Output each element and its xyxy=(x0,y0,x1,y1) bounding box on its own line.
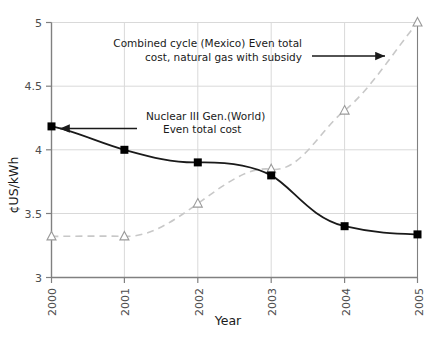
x-tick-label-2001: 2001 xyxy=(119,288,132,316)
x-tick-label-2000: 2000 xyxy=(46,288,59,316)
nuclear-annotation-line2: Even total cost xyxy=(163,123,241,135)
marker-square-2005 xyxy=(414,230,422,238)
x-tick-label-2003: 2003 xyxy=(266,288,279,316)
y-tick-label-3: 3 xyxy=(35,272,42,285)
marker-square-2001 xyxy=(120,146,128,154)
marker-square-2003 xyxy=(267,171,275,179)
chart-container: 5 4.5 4 3.5 3 2000 2001 2002 2003 2004 2… xyxy=(0,0,439,340)
y-tick-label-5: 5 xyxy=(35,17,42,30)
marker-square-2002 xyxy=(194,158,202,166)
nuclear-annotation-line1: Nuclear III Gen.(World) xyxy=(146,110,265,122)
marker-square-2000 xyxy=(48,122,56,130)
y-axis-title: ¢US/kWh xyxy=(6,157,21,214)
combined-cycle-annotation-line1: Combined cycle (Mexico) Even total xyxy=(113,37,302,49)
x-tick-label-2004: 2004 xyxy=(340,288,353,316)
line-chart: 5 4.5 4 3.5 3 2000 2001 2002 2003 2004 2… xyxy=(0,0,439,340)
marker-square-2004 xyxy=(341,222,349,230)
y-tick-label-3p5: 3.5 xyxy=(25,208,43,221)
x-tick-label-2002: 2002 xyxy=(193,288,206,316)
x-tick-label-2005: 2005 xyxy=(413,288,426,316)
y-tick-label-4: 4 xyxy=(35,144,42,157)
y-tick-label-4p5: 4.5 xyxy=(25,80,43,93)
combined-cycle-annotation-line2: cost, natural gas with subsidy xyxy=(145,51,302,63)
x-axis-title: Year xyxy=(214,313,242,328)
